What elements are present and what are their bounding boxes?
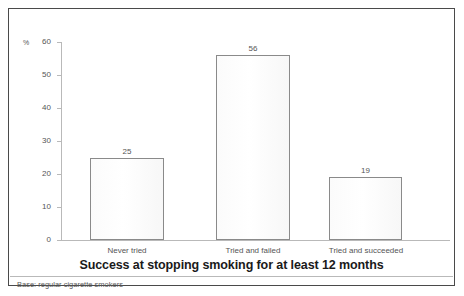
chart-frame: % 60 50 40 30 20 10 0 25 56 xyxy=(8,8,455,286)
y-tick-0: 0 xyxy=(57,240,61,241)
chart-footnote: Base: regular cigarette smokers xyxy=(17,281,123,289)
category-label-never-tried: Never tried xyxy=(107,247,146,255)
y-tick-label-20: 20 xyxy=(42,170,51,178)
y-tick-label-60: 60 xyxy=(42,38,51,46)
y-axis-unit-label: % xyxy=(23,39,29,46)
y-tick-label-0: 0 xyxy=(47,236,51,244)
category-label-tried-and-succeeded: Tried and succeeded xyxy=(329,247,403,255)
y-tick-label-30: 30 xyxy=(42,137,51,145)
y-tick-label-10: 10 xyxy=(42,203,51,211)
bar-value-tried-and-succeeded: 19 xyxy=(361,167,370,175)
y-tick-20: 20 xyxy=(57,174,61,175)
chart-title: Success at stopping smoking for at least… xyxy=(9,258,454,272)
y-tick-label-50: 50 xyxy=(42,71,51,79)
bar-value-tried-and-failed: 56 xyxy=(249,45,258,53)
y-axis-line xyxy=(61,42,62,241)
y-tick-50: 50 xyxy=(57,75,61,76)
bar-value-never-tried: 25 xyxy=(123,148,132,156)
bar-never-tried[interactable]: 25 xyxy=(90,158,164,241)
footnote-divider xyxy=(10,276,453,277)
y-tick-label-40: 40 xyxy=(42,104,51,112)
y-tick-30: 30 xyxy=(57,141,61,142)
y-tick-40: 40 xyxy=(57,108,61,109)
bar-tried-and-succeeded[interactable]: 19 xyxy=(329,177,402,240)
y-tick-60: 60 xyxy=(57,42,61,43)
category-label-tried-and-failed: Tried and failed xyxy=(226,247,281,255)
plot-area: 60 50 40 30 20 10 0 25 56 19 Never xyxy=(61,42,450,241)
y-tick-10: 10 xyxy=(57,207,61,208)
bar-tried-and-failed[interactable]: 56 xyxy=(216,55,290,240)
x-axis-line xyxy=(61,240,450,241)
